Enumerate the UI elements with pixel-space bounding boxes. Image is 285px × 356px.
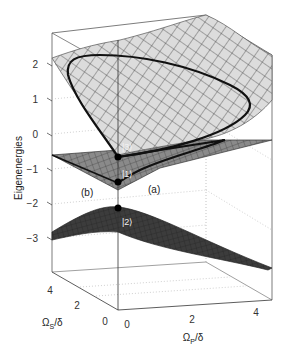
z-tick-neg1: −1 (27, 164, 39, 175)
y-tick-4: 4 (47, 285, 53, 296)
z-axis-ticks: 2 1 0 −1 −2 −3 (27, 59, 52, 244)
middle-surface-state-1 (52, 140, 272, 190)
axes-box-front (52, 272, 272, 310)
z-tick-neg2: −2 (27, 198, 39, 209)
z-tick-1: 1 (32, 94, 38, 105)
curve-b-label: (b) (81, 187, 93, 198)
lower-surface-state-2 (52, 207, 272, 270)
y-axis-label: ΩS/δ (42, 317, 63, 330)
z-tick-neg3: −3 (27, 233, 39, 244)
y-tick-2: 2 (74, 300, 80, 311)
x-tick-4: 4 (253, 307, 259, 318)
upper-surface-state-3 (52, 15, 272, 155)
state-1-label: |1⟩ (122, 169, 133, 179)
x-tick-0: 0 (124, 319, 130, 330)
z-tick-2: 2 (32, 59, 38, 70)
z-axis-label: Eigenenergies (13, 136, 24, 200)
state-2-label: |2⟩ (122, 217, 133, 227)
y-tick-0: 0 (102, 316, 108, 327)
eigenenergy-surface-plot: 2 1 0 −1 −2 −3 Eigenenergies 4 2 0 ΩS/δ … (0, 0, 285, 356)
curve-a-label: (a) (148, 184, 160, 195)
state-3-label: |3⟩ (122, 142, 133, 152)
z-tick-0: 0 (32, 129, 38, 140)
x-axis-label: ΩP/δ (183, 332, 204, 345)
x-tick-2: 2 (189, 314, 195, 325)
x-axis-ticks: 0 2 4 (124, 307, 259, 330)
